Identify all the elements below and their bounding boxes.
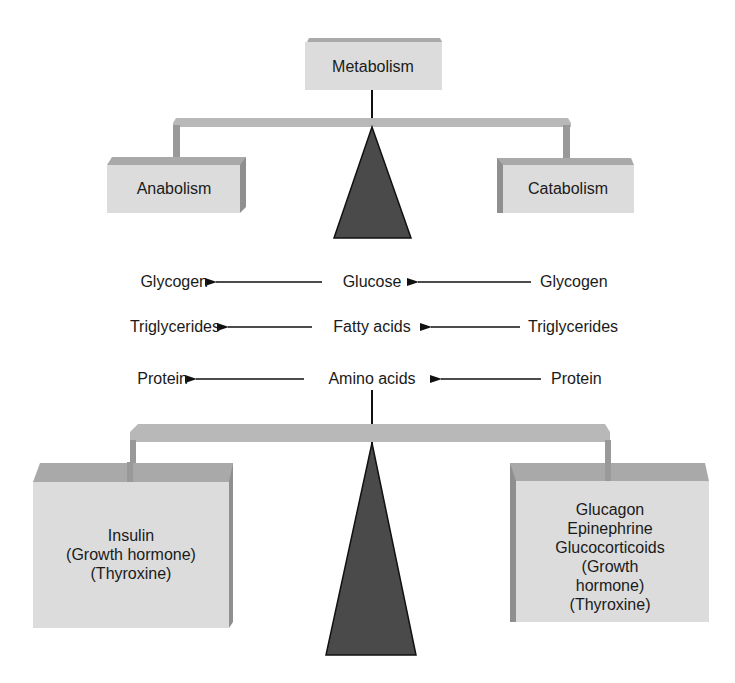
hormone-thyroxine: (Thyroxine) (548, 595, 673, 614)
upper-fulcrum (334, 127, 411, 238)
metabolism-label: Metabolism (332, 57, 414, 76)
anabolism-label: Anabolism (137, 179, 212, 198)
lower-fulcrum (326, 443, 416, 655)
hormone-growth-hormone: (Growth hormone) (548, 557, 673, 595)
row2-catabolic-source: Triglycerides (528, 317, 618, 336)
row1-anabolic-product: Glycogen (140, 272, 208, 291)
row1-substrate: Glucose (343, 272, 402, 291)
hormone-growth-hormone: (Growth hormone) (66, 545, 196, 564)
row3-catabolic-source: Protein (551, 369, 602, 388)
row3-anabolic-product: Protein (137, 369, 188, 388)
row1-catabolic-source: Glycogen (540, 272, 608, 291)
catabolic-hormones: Glucagon Epinephrine Glucocorticoids (Gr… (548, 500, 673, 614)
hormone-insulin: Insulin (66, 526, 196, 545)
hormone-thyroxine: (Thyroxine) (66, 564, 196, 583)
anabolic-hormones: Insulin (Growth hormone) (Thyroxine) (66, 526, 196, 583)
hormone-epinephrine: Epinephrine (548, 519, 673, 538)
row2-anabolic-product: Triglycerides (130, 317, 220, 336)
catabolism-label: Catabolism (528, 179, 608, 198)
hormone-glucagon: Glucagon (548, 500, 673, 519)
row3-substrate: Amino acids (328, 369, 415, 388)
row2-substrate: Fatty acids (333, 317, 410, 336)
hormone-glucocorticoids: Glucocorticoids (548, 538, 673, 557)
